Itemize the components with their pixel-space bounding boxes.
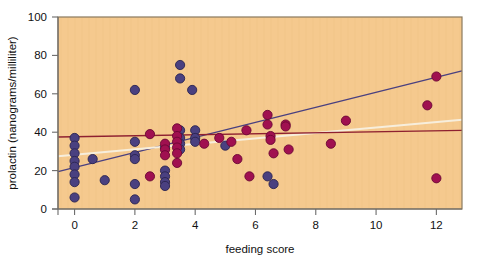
scatter-plot-figure: 024681012 020406080100 feeding score pro…	[0, 0, 480, 266]
chart-canvas: 024681012 020406080100 feeding score pro…	[0, 0, 480, 266]
data-point	[284, 145, 293, 154]
x-tick-label: 10	[370, 219, 383, 231]
data-point	[130, 154, 139, 163]
y-axis-title: prolactin (nanograms/milliliter)	[6, 36, 18, 190]
data-point	[70, 193, 79, 202]
data-point	[233, 154, 242, 163]
data-point	[215, 133, 224, 142]
data-point	[176, 74, 185, 83]
data-point	[70, 178, 79, 187]
x-tick-label: 6	[252, 219, 258, 231]
data-point	[130, 85, 139, 94]
data-point	[88, 154, 97, 163]
data-point	[188, 85, 197, 94]
data-point	[341, 116, 350, 125]
data-point	[100, 176, 109, 185]
data-point	[130, 137, 139, 146]
x-tick-label: 2	[132, 219, 138, 231]
x-axis: 024681012	[52, 209, 462, 231]
data-point	[281, 122, 290, 131]
data-point	[263, 110, 272, 119]
data-point	[172, 149, 181, 158]
data-point	[263, 172, 272, 181]
x-tick-label: 12	[430, 219, 443, 231]
x-tick-label: 0	[71, 219, 77, 231]
data-point	[432, 72, 441, 81]
plot-background-group	[58, 17, 462, 209]
data-point	[191, 137, 200, 146]
data-point	[326, 139, 335, 148]
x-axis-title: feeding score	[225, 243, 294, 255]
data-point	[423, 101, 432, 110]
y-tick-label: 100	[28, 11, 47, 23]
y-tick-label: 20	[34, 165, 47, 177]
data-point	[160, 181, 169, 190]
y-tick-label: 80	[34, 49, 47, 61]
y-tick-label: 0	[41, 203, 47, 215]
x-tick-label: 4	[192, 219, 199, 231]
data-point	[172, 158, 181, 167]
plot-area-background	[58, 17, 462, 209]
data-point	[130, 179, 139, 188]
data-point	[200, 139, 209, 148]
y-tick-label: 60	[34, 88, 47, 100]
data-point	[145, 130, 154, 139]
data-point	[432, 174, 441, 183]
y-axis: 020406080100	[28, 11, 58, 215]
data-point	[130, 195, 139, 204]
data-point	[145, 172, 154, 181]
data-point	[266, 135, 275, 144]
x-tick-label: 8	[313, 219, 319, 231]
data-point	[242, 126, 251, 135]
y-tick-label: 40	[34, 126, 47, 138]
data-point	[160, 151, 169, 160]
data-point	[176, 60, 185, 69]
data-point	[269, 149, 278, 158]
data-point	[245, 172, 254, 181]
data-point	[269, 179, 278, 188]
data-point	[227, 137, 236, 146]
data-point	[263, 120, 272, 129]
